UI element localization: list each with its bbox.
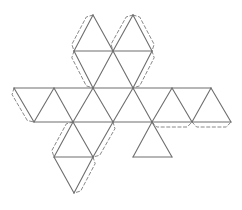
edge xyxy=(133,88,152,122)
icosahedron-net-diagram xyxy=(0,0,242,210)
edge xyxy=(73,122,93,157)
edge xyxy=(54,122,73,157)
glue-tab xyxy=(192,122,231,127)
edge xyxy=(172,88,192,122)
edge xyxy=(133,122,152,157)
edge xyxy=(152,88,172,122)
edge xyxy=(133,15,152,51)
edge xyxy=(133,51,152,88)
edge xyxy=(14,88,34,122)
edge xyxy=(54,157,74,193)
edge xyxy=(113,88,133,122)
edge xyxy=(113,51,133,88)
edge xyxy=(54,88,73,122)
fold-edges xyxy=(14,15,231,193)
edge xyxy=(113,15,133,51)
edge xyxy=(74,15,93,51)
edge xyxy=(34,88,54,122)
edge xyxy=(192,88,211,122)
edge xyxy=(74,51,93,88)
edge xyxy=(93,122,113,157)
edge xyxy=(93,15,113,51)
edge xyxy=(73,88,93,122)
edge xyxy=(74,157,93,193)
edge xyxy=(211,88,231,122)
edge xyxy=(93,88,113,122)
glue-tab xyxy=(152,122,192,127)
edge xyxy=(93,51,113,88)
